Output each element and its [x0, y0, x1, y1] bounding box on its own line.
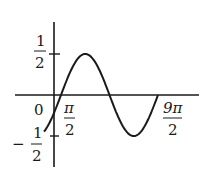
x-label-9pi-num: 9π: [163, 99, 184, 117]
y-label-neg-sign: −: [12, 135, 25, 153]
x-label-pi-over-2: π 2: [63, 99, 75, 139]
x-label-9pi-over-2: 9π 2: [163, 99, 184, 139]
y-label-half: 1 2: [34, 32, 46, 72]
y-label-neg-half: − 1 2: [12, 124, 43, 165]
x-label-pi-den: 2: [65, 121, 75, 139]
x-label-9pi-den: 2: [168, 121, 178, 139]
origin-label: 0: [34, 101, 44, 119]
y-label-neg-num: 1: [33, 124, 43, 142]
x-label-pi-num: π: [63, 99, 75, 117]
y-label-half-den: 2: [35, 54, 45, 72]
y-label-neg-den: 2: [32, 147, 42, 165]
sinusoid-chart: 1 2 0 π 2 − 1 2 9π 2: [0, 0, 223, 187]
y-label-half-num: 1: [36, 32, 46, 50]
